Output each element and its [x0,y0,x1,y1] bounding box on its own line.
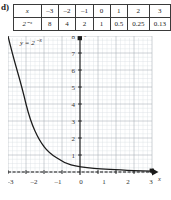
x-axis-name: x [157,175,161,182]
table-cell-y-3: 1 [93,18,110,31]
table-cell-y-2: 2 [76,18,93,31]
table-cell-y-0: 8 [41,18,58,31]
table-cell-y-5: 0.25 [128,18,149,31]
x-tick-label-0: 0 [79,178,83,186]
x-tick-label-2: 2 [126,178,130,186]
table-cell-y-1: 4 [58,18,75,31]
table-cell-x-2: –1 [76,5,93,18]
y-tick-label-4: 4 [72,101,76,109]
table-cell-x-1: –2 [58,5,75,18]
exercise-figure-panel: d) x –3 –2 –1 0 1 2 3 2⁻ˣ 8 4 2 1 0.5 0.… [0,0,171,200]
table-cell-x-5: 2 [128,5,149,18]
table-cell-x-3: 0 [93,5,110,18]
part-label: d) [1,2,9,12]
table-cell-x-6: 3 [149,5,170,18]
table-row-x: x –3 –2 –1 0 1 2 3 [14,5,171,18]
y-axis-name: y [84,36,88,37]
y-tick-label-2: 2 [72,135,76,143]
table-cell-y-6: 0.13 [149,18,170,31]
x-tick-label-3: 3 [149,178,153,186]
curve-label-group: y = 2 –x [19,37,43,48]
y-tick-label-1: 1 [72,152,76,160]
exponential-decay-graph: 8 7 6 5 4 3 2 1 –3 [8,36,166,188]
x-tick-label-1: 1 [102,178,106,186]
y-tick-label-5: 5 [72,84,76,92]
x-tick-label-neg2: –2 [30,178,39,186]
table-cell-x-0: –3 [41,5,58,18]
x-tick-label-neg3: –3 [8,178,14,186]
value-table: x –3 –2 –1 0 1 2 3 2⁻ˣ 8 4 2 1 0.5 0.25 … [13,4,171,31]
y-tick-label-7: 7 [72,50,76,58]
y-tick-label-8: 8 [72,36,76,41]
x-tick-labels: –3 –2 –1 0 1 2 3 [8,178,153,186]
curve-label: y = 2 [19,39,35,47]
table-cell-x-4: 1 [110,5,127,18]
y-tick-label-6: 6 [72,67,76,75]
table-cell-y-4: 0.5 [110,18,127,31]
table-row-y: 2⁻ˣ 8 4 2 1 0.5 0.25 0.13 [14,18,171,31]
x-tick-label-neg1: –1 [54,178,63,186]
graph-svg: 8 7 6 5 4 3 2 1 –3 [8,36,166,188]
y-tick-labels: 8 7 6 5 4 3 2 1 [72,36,76,160]
curve-endpoint-marker [150,169,154,173]
y-tick-label-3: 3 [72,118,76,126]
row-header-x: x [14,5,42,18]
row-header-y: 2⁻ˣ [14,18,42,31]
y-axis [78,36,82,175]
curve-label-exponent: –x [36,37,43,43]
